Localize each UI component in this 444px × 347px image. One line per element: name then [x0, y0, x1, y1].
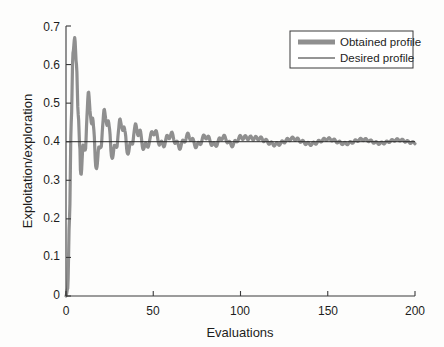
plot-canvas: Exploitation/exploration 0.7 0.6 0.5 0.4…: [0, 0, 444, 347]
y-tick-label: 0.5: [43, 96, 60, 110]
y-tick-label: 0.6: [43, 58, 60, 72]
x-tick-label: 100: [230, 304, 250, 318]
legend[interactable]: Obtained profile Desired profile: [290, 31, 421, 68]
y-tick-label: 0.2: [43, 211, 60, 225]
x-tick-label: 0: [63, 304, 70, 318]
y-tick-label: 0.7: [43, 20, 60, 34]
x-axis-label: Evaluations: [206, 325, 274, 340]
obtained-profile-line: [66, 38, 415, 296]
x-tick-label: 50: [146, 304, 160, 318]
x-tick-labels: 0 50 100 150 200: [63, 304, 426, 318]
x-tick-label: 150: [318, 304, 338, 318]
y-tick-label: 0: [53, 288, 60, 302]
series-obtained-profile: [66, 38, 415, 296]
y-tick-label: 0.3: [43, 173, 60, 187]
y-tick-label: 0.1: [43, 249, 60, 263]
y-tick-labels: 0.7 0.6 0.5 0.4 0.3 0.2 0.1 0: [43, 20, 60, 302]
x-tick-label: 200: [405, 304, 425, 318]
chart-figure: Exploitation/exploration 0.7 0.6 0.5 0.4…: [0, 0, 444, 347]
legend-label-obtained: Obtained profile: [340, 36, 421, 48]
y-axis-label: Exploitation/exploration: [20, 94, 35, 228]
legend-label-desired: Desired profile: [340, 52, 414, 64]
y-tick-label: 0.4: [43, 134, 60, 148]
